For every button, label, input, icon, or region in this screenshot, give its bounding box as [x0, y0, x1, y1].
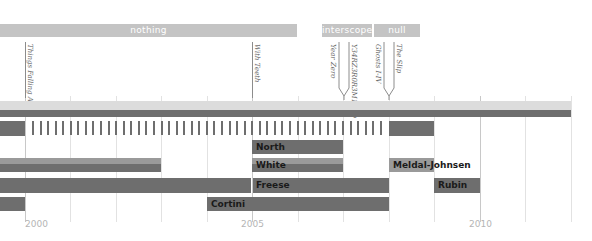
release-label: With Teeth: [253, 44, 261, 83]
member-label-north: North: [256, 140, 285, 154]
drums-tick: [259, 121, 261, 135]
label-period-nothing: nothing: [0, 24, 297, 37]
row-white-bar: [0, 164, 161, 172]
row-drums-bar: [0, 121, 25, 136]
row-reznor-bar: [0, 110, 571, 117]
drums-tick: [85, 121, 87, 135]
label-period-interscope: interscope: [322, 24, 372, 37]
drums-tick: [47, 121, 49, 135]
drums-tick: [123, 121, 125, 135]
member-label-freese: Freese: [256, 178, 290, 192]
drums-tick: [108, 121, 110, 135]
gridline-2012: [571, 96, 572, 222]
drums-tick: [319, 121, 321, 135]
drums-tick: [334, 121, 336, 135]
drums-tick: [289, 121, 291, 135]
drums-tick: [198, 121, 200, 135]
label-period-null: null: [374, 24, 420, 37]
drums-tick: [161, 121, 163, 135]
drums-tick: [357, 121, 359, 135]
drums-tick: [274, 121, 276, 135]
member-label-rubin: Rubin: [438, 178, 467, 192]
drums-tick: [327, 121, 329, 135]
drums-tick: [365, 121, 367, 135]
row-cortini-bar: [0, 197, 25, 211]
x-axis-label-2000: 2000: [25, 219, 48, 229]
member-label-meldal-johnsen: Meldal-Johnsen: [393, 158, 471, 172]
row-freese-bar: [0, 178, 251, 193]
row-drums-bar: [389, 121, 434, 136]
drums-tick: [70, 121, 72, 135]
drums-tick: [115, 121, 117, 135]
drums-tick: [372, 121, 374, 135]
drums-tick: [40, 121, 42, 135]
drums-tick: [380, 121, 382, 135]
drums-tick: [130, 121, 132, 135]
drums-tick: [183, 121, 185, 135]
drums-tick: [350, 121, 352, 135]
drums-tick: [168, 121, 170, 135]
drums-tick: [145, 121, 147, 135]
drums-tick: [251, 121, 253, 135]
drums-tick: [236, 121, 238, 135]
release-label: Year Zero: [329, 44, 337, 78]
drums-tick: [138, 121, 140, 135]
drums-tick: [304, 121, 306, 135]
drums-tick: [213, 121, 215, 135]
drums-tick: [92, 121, 94, 135]
drums-tick: [206, 121, 208, 135]
x-axis-label-2010: 2010: [469, 219, 492, 229]
drums-tick: [312, 121, 314, 135]
member-label-cortini: Cortini: [211, 197, 245, 211]
drums-tick: [266, 121, 268, 135]
drums-tick: [55, 121, 57, 135]
drums-tick: [32, 121, 34, 135]
drums-tick: [153, 121, 155, 135]
drums-tick: [297, 121, 299, 135]
drums-tick: [244, 121, 246, 135]
drums-tick: [77, 121, 79, 135]
drums-tick: [281, 121, 283, 135]
x-axis-label-2005: 2005: [241, 219, 264, 229]
drums-tick: [342, 121, 344, 135]
drums-tick: [221, 121, 223, 135]
drums-tick: [100, 121, 102, 135]
release-label: The Slip: [395, 44, 403, 73]
drums-tick: [229, 121, 231, 135]
drums-tick: [191, 121, 193, 135]
member-label-white: White: [256, 158, 286, 172]
drums-tick: [176, 121, 178, 135]
release-label: Ghosts I-IV: [374, 44, 382, 84]
drums-tick: [62, 121, 64, 135]
timeline-band-light: [0, 101, 571, 110]
